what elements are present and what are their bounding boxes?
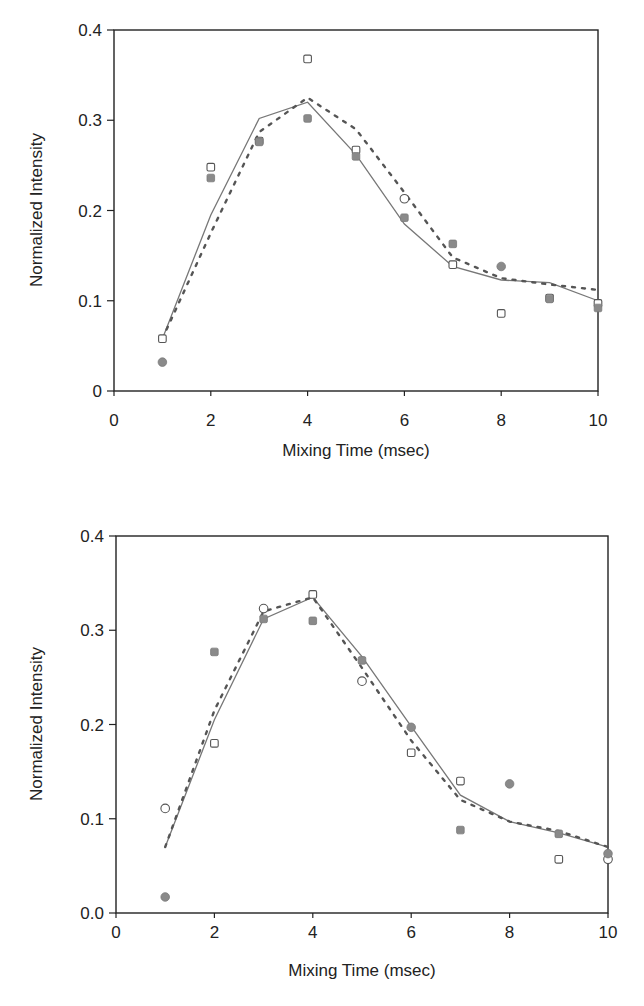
x-tick-label: 10 bbox=[599, 923, 618, 942]
x-tick-label: 6 bbox=[400, 411, 409, 430]
point-open-markers-2 bbox=[207, 163, 215, 171]
series-fit-dashed bbox=[162, 98, 598, 339]
point-open-markers-9 bbox=[555, 855, 563, 863]
point-filled-markers-8 bbox=[497, 262, 506, 271]
chart-top: Mixing Time (msec) Normalized Intensity … bbox=[27, 21, 607, 460]
x-tick-label: 6 bbox=[406, 923, 415, 942]
point-open-markers-7 bbox=[449, 261, 457, 269]
point-filled-markers-9 bbox=[555, 830, 563, 838]
point-filled-markers-4 bbox=[304, 115, 312, 123]
plot-frame bbox=[114, 30, 598, 391]
plot-frame bbox=[116, 536, 608, 913]
point-open-markers-7 bbox=[457, 777, 465, 785]
point-filled-markers-6 bbox=[401, 214, 409, 222]
y-tick-label: 0.2 bbox=[80, 716, 104, 735]
point-filled-markers-7 bbox=[449, 240, 457, 248]
point-filled-markers-4 bbox=[309, 617, 317, 625]
point-open-markers-8 bbox=[497, 310, 505, 318]
y-axis-title: Normalized Intensity bbox=[27, 647, 46, 802]
point-open-markers-1 bbox=[159, 335, 167, 343]
x-tick-label: 10 bbox=[589, 411, 608, 430]
x-axis-title: Mixing Time (msec) bbox=[282, 441, 429, 460]
y-tick-label: 0.1 bbox=[78, 292, 102, 311]
x-tick-label: 0 bbox=[111, 923, 120, 942]
y-axis-title: Normalized Intensity bbox=[27, 133, 46, 288]
x-tick-label: 8 bbox=[505, 923, 514, 942]
y-tick-label: 0.3 bbox=[80, 621, 104, 640]
point-filled-markers-2 bbox=[207, 174, 215, 182]
point-open-markers-5 bbox=[358, 677, 367, 686]
point-filled-markers-10 bbox=[604, 849, 613, 858]
y-tick-label: 0.4 bbox=[80, 527, 104, 546]
y-tick-label: 0.0 bbox=[80, 904, 104, 923]
y-tick-label: 0.4 bbox=[78, 21, 102, 40]
point-filled-markers-3 bbox=[260, 615, 268, 623]
point-filled-markers-5 bbox=[358, 657, 366, 665]
point-open-markers-2 bbox=[211, 740, 219, 748]
x-tick-label: 2 bbox=[210, 923, 219, 942]
point-open-markers-3 bbox=[259, 604, 268, 613]
point-filled-markers-9 bbox=[546, 295, 554, 303]
x-tick-label: 2 bbox=[206, 411, 215, 430]
x-tick-label: 4 bbox=[303, 411, 312, 430]
point-open-markers-6 bbox=[400, 194, 409, 203]
series-fit-dashed bbox=[165, 597, 608, 847]
figure: Mixing Time (msec) Normalized Intensity … bbox=[0, 0, 644, 1006]
series-fit-solid bbox=[162, 102, 598, 338]
series-fit-solid bbox=[165, 597, 608, 847]
y-tick-label: 0.1 bbox=[80, 810, 104, 829]
x-tick-label: 8 bbox=[496, 411, 505, 430]
point-filled-markers-8 bbox=[505, 780, 514, 789]
point-filled-markers-2 bbox=[211, 648, 219, 656]
y-tick-label: 0.2 bbox=[78, 202, 102, 221]
point-filled-markers-1 bbox=[158, 358, 167, 367]
point-open-markers-4 bbox=[304, 55, 312, 63]
point-filled-markers-6 bbox=[407, 723, 416, 732]
point-open-markers-1 bbox=[161, 804, 170, 813]
point-filled-markers-1 bbox=[161, 893, 170, 902]
point-filled-markers-3 bbox=[255, 138, 263, 146]
point-open-markers-4 bbox=[309, 591, 317, 599]
y-tick-label: 0.3 bbox=[78, 111, 102, 130]
x-tick-label: 4 bbox=[308, 923, 317, 942]
point-open-markers-6 bbox=[407, 749, 415, 757]
chart-bottom: Mixing Time (msec) Normalized Intensity … bbox=[27, 527, 617, 980]
point-filled-markers-7 bbox=[457, 826, 465, 834]
x-tick-label: 0 bbox=[109, 411, 118, 430]
x-axis-title: Mixing Time (msec) bbox=[288, 961, 435, 980]
point-filled-markers-5 bbox=[352, 153, 360, 161]
point-filled-markers-10 bbox=[594, 304, 602, 312]
y-tick-label: 0 bbox=[93, 382, 102, 401]
